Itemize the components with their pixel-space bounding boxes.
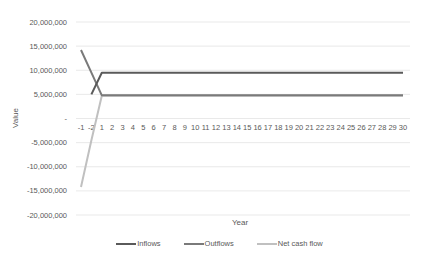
x-axis-title: Year (232, 218, 249, 227)
legend-swatch-outflows (184, 243, 204, 245)
x-tick-label: 13 (222, 123, 230, 132)
y-axis-tick-labels: 20,000,00015,000,00010,000,0005,000,000-… (27, 18, 68, 220)
x-tick-label: 7 (162, 123, 166, 132)
y-tick-label: 10,000,000 (29, 66, 67, 75)
x-tick-label: 6 (152, 123, 156, 132)
legend-label: Net cash flow (278, 239, 323, 248)
x-tick-label: 9 (183, 123, 187, 132)
x-tick-label: 12 (212, 123, 220, 132)
x-tick-label: 15 (243, 123, 251, 132)
x-tick-label: -1 (78, 123, 85, 132)
x-tick-label: 28 (378, 123, 386, 132)
series-line-net-cash-flow (81, 96, 403, 187)
y-tick-label: -20,000,000 (27, 211, 67, 220)
x-tick-label: 18 (274, 123, 282, 132)
x-tick-label: 25 (347, 123, 355, 132)
x-tick-label: 14 (233, 123, 241, 132)
x-tick-label: 11 (202, 123, 210, 132)
x-tick-label: 10 (191, 123, 199, 132)
x-tick-label: 21 (305, 123, 313, 132)
x-tick-label: 3 (120, 123, 124, 132)
gridlines (76, 22, 410, 215)
line-chart: 20,000,00015,000,00010,000,0005,000,000-… (0, 0, 425, 266)
series-line-inflows (91, 73, 403, 95)
x-tick-label: 23 (326, 123, 334, 132)
x-tick-label: 2 (110, 123, 114, 132)
x-tick-label: 1 (100, 123, 104, 132)
legend-item-inflows: Inflows (116, 239, 160, 248)
legend-item-net-cash-flow: Net cash flow (257, 239, 323, 248)
y-tick-label: 20,000,000 (29, 18, 67, 27)
x-tick-label: 27 (368, 123, 376, 132)
y-tick-label: -5,000,000 (31, 138, 67, 147)
legend-swatch-inflows (116, 243, 136, 245)
x-tick-label: 17 (264, 123, 272, 132)
y-tick-label: -10,000,000 (27, 162, 67, 171)
x-tick-label: 30 (399, 123, 407, 132)
legend-label: Outflows (205, 239, 234, 248)
x-axis-tick-labels: -1-2123456789101112131415161718192021222… (78, 123, 408, 132)
legend-swatch-net-cash-flow (257, 243, 277, 245)
x-tick-label: 8 (172, 123, 176, 132)
y-tick-label: 15,000,000 (29, 42, 67, 51)
x-tick-label: 16 (253, 123, 261, 132)
x-tick-label: 5 (141, 123, 145, 132)
x-tick-label: 26 (357, 123, 365, 132)
x-tick-label: 22 (316, 123, 324, 132)
x-tick-label: 4 (131, 123, 135, 132)
legend-label: Inflows (137, 239, 160, 248)
x-tick-label: 20 (295, 123, 303, 132)
y-tick-label: -15,000,000 (27, 186, 67, 195)
x-tick-label: 29 (388, 123, 396, 132)
y-tick-label: 5,000,000 (34, 90, 67, 99)
y-axis-title: Value (11, 108, 20, 128)
chart-legend: Inflows Outflows Net cash flow (0, 239, 425, 248)
x-tick-label: 24 (337, 123, 345, 132)
legend-item-outflows: Outflows (184, 239, 234, 248)
x-tick-label: 19 (285, 123, 293, 132)
y-tick-label: - (65, 114, 68, 123)
